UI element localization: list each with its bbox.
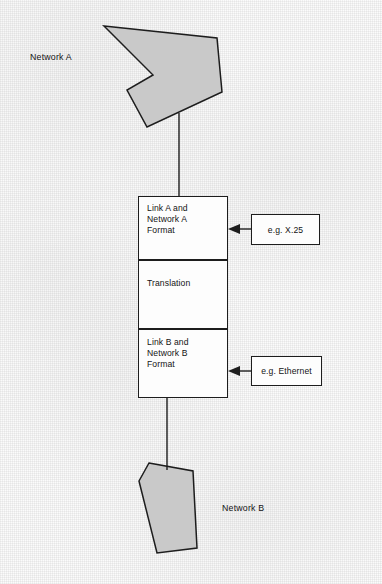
network-b-shape	[139, 463, 197, 553]
callout-ethernet-label: e.g. Ethernet	[261, 366, 312, 376]
gateway-segment-link-b-label: Link B and Network B Format	[147, 337, 189, 371]
network-a-shape	[104, 26, 222, 127]
callout-ethernet[interactable]: e.g. Ethernet	[251, 356, 322, 386]
gateway-segment-translation-label: Translation	[147, 278, 190, 289]
diagram-canvas: Network A Network B Link A and Network A…	[0, 0, 382, 584]
callout-ethernet-arrowhead-icon	[228, 366, 240, 376]
network-b-label: Network B	[222, 503, 264, 513]
gateway-segment-translation[interactable]	[138, 260, 228, 329]
callout-x25-arrowhead-icon	[228, 224, 240, 234]
network-a-label: Network A	[30, 52, 72, 62]
callout-x25[interactable]: e.g. X.25	[251, 214, 320, 245]
gateway-segment-link-a-label: Link A and Network A Format	[147, 203, 188, 237]
callout-x25-label: e.g. X.25	[268, 225, 303, 235]
